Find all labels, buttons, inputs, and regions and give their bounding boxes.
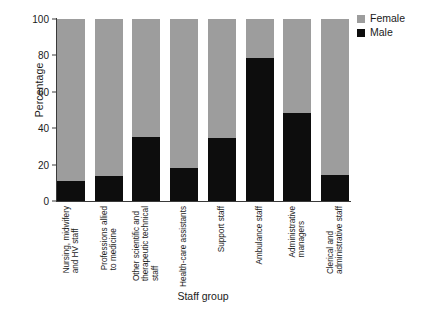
y-tick-label: 0 xyxy=(43,196,49,207)
x-axis-category-labels: Nursing, midwiferyand HV staffProfession… xyxy=(57,203,349,288)
bar-segment-male xyxy=(170,168,198,201)
stacked-bar-chart: Percentage 020406080100 Nursing, midwife… xyxy=(0,0,442,315)
bar-series-group xyxy=(57,19,349,201)
bar-segment-male xyxy=(283,113,311,201)
legend-swatch-icon xyxy=(357,15,365,23)
y-tick-label: 60 xyxy=(38,86,49,97)
category-label-text: Administrativemanagers xyxy=(288,206,307,257)
legend-item-male: Male xyxy=(357,27,405,38)
bar-segment-male xyxy=(246,58,274,201)
category-label-3: Health-care assistants xyxy=(170,203,198,288)
category-label-text: Other scientific andtherapeutic technica… xyxy=(132,206,160,281)
bar-segment-female xyxy=(246,19,274,58)
bar-0 xyxy=(57,19,85,201)
category-label-text: Ambulance staff xyxy=(255,206,264,265)
category-label-text: Professions alliedto medicine xyxy=(99,206,118,270)
category-label-text: Nursing, midwiferyand HV staff xyxy=(62,206,81,273)
y-tick-label: 20 xyxy=(38,159,49,170)
y-tick-label: 80 xyxy=(38,50,49,61)
chart-legend: FemaleMale xyxy=(357,13,405,41)
bar-5 xyxy=(246,19,274,201)
bar-segment-male xyxy=(57,181,85,201)
category-label-text: Clerical andadministrative staff xyxy=(326,206,345,274)
legend-swatch-icon xyxy=(357,29,365,37)
legend-item-female: Female xyxy=(357,13,405,24)
bar-segment-male xyxy=(321,175,349,201)
bar-segment-female xyxy=(283,19,311,113)
bar-segment-male xyxy=(132,137,160,201)
category-label-2: Other scientific andtherapeutic technica… xyxy=(132,203,160,288)
bar-3 xyxy=(170,19,198,201)
category-label-4: Support staff xyxy=(208,203,236,288)
legend-label: Female xyxy=(370,13,405,24)
bar-7 xyxy=(321,19,349,201)
bar-segment-female xyxy=(208,19,236,138)
category-label-7: Clerical andadministrative staff xyxy=(321,203,349,288)
category-label-text: Health-care assistants xyxy=(179,206,188,287)
bar-segment-female xyxy=(132,19,160,137)
legend-label: Male xyxy=(370,27,393,38)
y-tick-label: 100 xyxy=(32,14,49,25)
bar-4 xyxy=(208,19,236,201)
category-label-text: Support staff xyxy=(217,206,226,252)
bar-6 xyxy=(283,19,311,201)
x-axis-title: Staff group xyxy=(57,290,349,302)
category-label-0: Nursing, midwiferyand HV staff xyxy=(57,203,85,288)
bar-segment-female xyxy=(57,19,85,181)
category-label-6: Administrativemanagers xyxy=(283,203,311,288)
bar-segment-female xyxy=(95,19,123,176)
bar-segment-male xyxy=(208,138,236,201)
x-axis-line xyxy=(56,201,351,202)
category-label-5: Ambulance staff xyxy=(246,203,274,288)
category-label-1: Professions alliedto medicine xyxy=(95,203,123,288)
bar-segment-female xyxy=(321,19,349,175)
bar-2 xyxy=(132,19,160,201)
bar-segment-female xyxy=(170,19,198,168)
plot-area: 020406080100 xyxy=(57,19,349,201)
y-tick-label: 40 xyxy=(38,123,49,134)
bar-1 xyxy=(95,19,123,201)
bar-segment-male xyxy=(95,176,123,201)
